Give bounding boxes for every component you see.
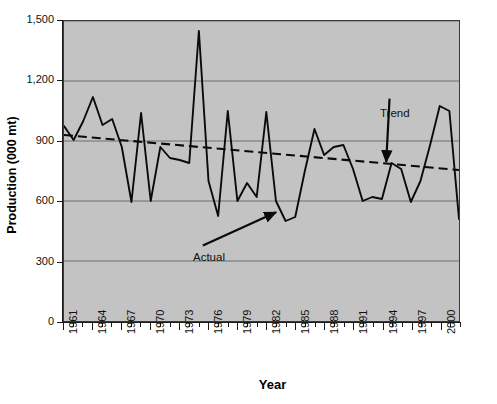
x-axis-minor-tick (257, 323, 258, 327)
x-axis-major-tick (295, 323, 296, 330)
x-axis-major-tick (208, 323, 209, 330)
x-axis-title: Year (0, 377, 497, 392)
y-axis-tick (57, 322, 62, 323)
y-axis-tick (57, 80, 62, 81)
y-axis-title: Production (000 mt) (2, 60, 22, 290)
x-axis-major-tick (353, 323, 354, 330)
x-axis-tick-label: 1991 (357, 310, 369, 334)
x-axis-major-tick (92, 323, 93, 330)
x-axis-minor-tick (82, 323, 83, 327)
x-axis-tick-label: 1973 (183, 310, 195, 334)
x-axis-minor-tick (199, 323, 200, 327)
x-axis-tick-label: 1979 (241, 310, 253, 334)
x-axis-minor-tick (140, 323, 141, 327)
trend-annotation-label: Trend (380, 107, 410, 119)
x-axis-major-tick (63, 323, 64, 330)
x-axis-major-tick (266, 323, 267, 330)
x-axis-tick-label: 1970 (154, 310, 166, 334)
x-axis-minor-tick (431, 323, 432, 327)
x-axis-tick-label: 1988 (328, 310, 340, 334)
x-axis-major-tick (441, 323, 442, 330)
x-axis-minor-tick (286, 323, 287, 327)
x-axis-minor-tick (228, 323, 229, 327)
x-axis-major-tick (150, 323, 151, 330)
series-actual-line (64, 31, 459, 221)
y-axis-tick (57, 262, 62, 263)
x-axis-major-tick (383, 323, 384, 330)
x-axis-major-tick (179, 323, 180, 330)
x-axis-tick-label: 1961 (67, 310, 79, 334)
y-axis-tick (57, 141, 62, 142)
x-axis-minor-tick (373, 323, 374, 327)
x-axis-tick-label: 1976 (212, 310, 224, 334)
plot-canvas (64, 21, 459, 321)
x-axis-tick-label: 2000 (445, 310, 457, 334)
y-axis-line (62, 20, 63, 323)
x-axis-tick-label: 1994 (387, 310, 399, 334)
y-axis-title-text: Production (000 mt) (5, 116, 19, 233)
x-axis-tick-label: 1964 (96, 310, 108, 334)
x-axis-major-tick (412, 323, 413, 330)
x-axis-major-tick (324, 323, 325, 330)
x-axis-tick-label: 1982 (270, 310, 282, 334)
x-axis-major-tick (237, 323, 238, 330)
x-axis-title-text: Year (259, 377, 286, 392)
x-axis-minor-tick (460, 323, 461, 327)
y-axis-tick-label: 1,500 (8, 14, 54, 25)
y-axis-tick (57, 201, 62, 202)
x-axis-minor-tick (402, 323, 403, 327)
chart-figure: Actual Trend 03006009001,2001,500 196119… (0, 0, 497, 404)
x-axis-minor-tick (111, 323, 112, 327)
plot-area (63, 20, 460, 322)
x-axis-minor-tick (344, 323, 345, 327)
x-axis-minor-tick (170, 323, 171, 327)
y-axis-tick (57, 20, 62, 21)
x-axis-tick-label: 1985 (299, 310, 311, 334)
x-axis-major-tick (121, 323, 122, 330)
y-axis-tick-label: 0 (8, 316, 54, 327)
x-axis-tick-label: 1997 (416, 310, 428, 334)
x-axis-tick-label: 1967 (125, 310, 137, 334)
actual-annotation-label: Actual (193, 251, 225, 263)
x-axis-minor-tick (315, 323, 316, 327)
